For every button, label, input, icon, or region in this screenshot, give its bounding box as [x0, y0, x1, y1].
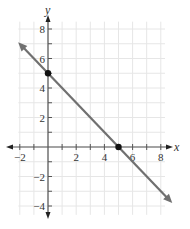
chart: −224688642−2−4 x y	[0, 0, 190, 229]
x-axis-label: x	[173, 140, 180, 154]
x-tick-label: 4	[102, 151, 108, 163]
x-tick-label: 8	[158, 151, 164, 163]
data-point	[45, 70, 51, 76]
y-tick-label: −2	[33, 171, 45, 183]
y-axis-label: y	[44, 3, 51, 17]
x-tick-label: −2	[14, 151, 26, 163]
y-axis-down-arrow-icon	[46, 212, 51, 219]
y-tick-label: 6	[40, 53, 46, 65]
x-tick-label: 2	[73, 151, 79, 163]
y-tick-label: 8	[40, 23, 46, 35]
data-point	[115, 144, 121, 150]
x-axis-right-arrow-icon	[166, 145, 173, 150]
y-tick-label: −4	[33, 200, 45, 212]
x-axis-left-arrow-icon	[6, 145, 13, 150]
y-tick-label: 2	[40, 112, 46, 124]
y-tick-label: 4	[40, 82, 46, 94]
